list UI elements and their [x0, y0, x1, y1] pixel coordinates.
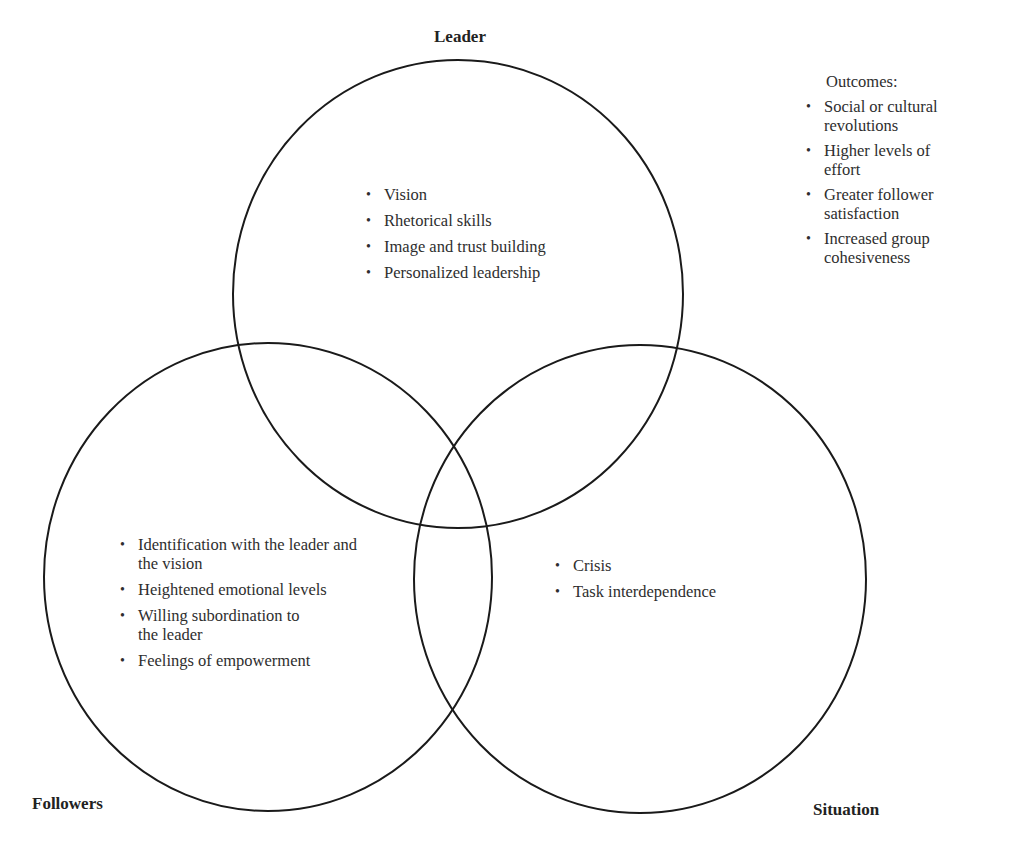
- leader-circle: [233, 60, 683, 528]
- leader-items: • Vision • Rhetorical skills • Image and…: [364, 185, 546, 289]
- followers-label: Followers: [32, 794, 103, 814]
- list-item: • Heightened emotional levels: [118, 580, 378, 599]
- bullet-icon: •: [555, 556, 560, 575]
- list-item: • Willing subordination to the leader: [118, 606, 308, 644]
- bullet-icon: •: [366, 263, 371, 282]
- bullet-icon: •: [555, 582, 560, 601]
- list-item: • Image and trust building: [364, 237, 546, 256]
- bullet-icon: •: [806, 229, 811, 248]
- bullet-icon: •: [806, 185, 811, 204]
- bullet-icon: •: [806, 141, 811, 160]
- bullet-icon: •: [366, 211, 371, 230]
- followers-items: • Identification with the leader and the…: [118, 535, 378, 677]
- bullet-icon: •: [366, 185, 371, 204]
- venn-diagram: Leader Followers Situation • Vision • Rh…: [0, 0, 1012, 866]
- list-item: • Greater follower satisfaction: [804, 185, 1004, 223]
- outcomes-heading: Outcomes:: [804, 72, 1004, 91]
- list-item: • Feelings of empowerment: [118, 651, 378, 670]
- bullet-icon: •: [120, 580, 125, 599]
- bullet-icon: •: [806, 97, 811, 116]
- bullet-icon: •: [120, 535, 125, 554]
- bullet-icon: •: [120, 606, 125, 625]
- outcomes-list: • Social or cultural revolutions • Highe…: [804, 97, 1004, 267]
- list-item: • Crisis: [553, 556, 716, 575]
- list-item: • Higher levels of effort: [804, 141, 954, 179]
- list-item: • Personalized leadership: [364, 263, 546, 282]
- list-item: • Social or cultural revolutions: [804, 97, 994, 135]
- outcomes-panel: Outcomes: • Social or cultural revolutio…: [804, 72, 1004, 273]
- list-item: • Task interdependence: [553, 582, 716, 601]
- situation-items: • Crisis • Task interdependence: [553, 556, 716, 608]
- situation-label: Situation: [813, 800, 879, 820]
- list-item: • Vision: [364, 185, 546, 204]
- leader-label: Leader: [434, 27, 486, 47]
- list-item: • Increased group cohesiveness: [804, 229, 999, 267]
- list-item: • Rhetorical skills: [364, 211, 546, 230]
- bullet-icon: •: [366, 237, 371, 256]
- bullet-icon: •: [120, 651, 125, 670]
- list-item: • Identification with the leader and the…: [118, 535, 378, 573]
